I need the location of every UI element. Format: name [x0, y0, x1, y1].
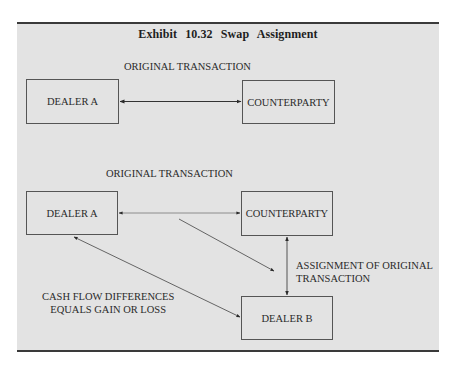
top-counterparty-label: COUNTERPARTY [247, 97, 329, 108]
top-counterparty-box: COUNTERPARTY [242, 80, 335, 124]
assignment-label-line1: ASSIGNMENT OF ORIGINAL [296, 259, 433, 272]
assignment-label-line2: TRANSACTION [296, 272, 433, 285]
dealer-b-label: DEALER B [261, 313, 312, 324]
exhibit-title: Exhibit 10.32 Swap Assignment [0, 27, 456, 42]
bottom-dealer-a-label: DEALER A [46, 208, 97, 219]
bottom-counterparty-box: COUNTERPARTY [241, 191, 333, 236]
cash-flow-label: CASH FLOW DIFFERENCES EQUALS GAIN OR LOS… [42, 290, 174, 316]
top-dealer-a-box: DEALER A [26, 79, 119, 124]
bottom-counterparty-label: COUNTERPARTY [246, 208, 328, 219]
bottom-dealer-a-box: DEALER A [26, 191, 118, 235]
dealer-b-box: DEALER B [241, 296, 333, 340]
top-caption: ORIGINAL TRANSACTION [124, 60, 251, 73]
cash-flow-label-line2: EQUALS GAIN OR LOSS [42, 303, 174, 316]
assignment-label: ASSIGNMENT OF ORIGINAL TRANSACTION [296, 259, 433, 285]
bottom-caption: ORIGINAL TRANSACTION [106, 167, 233, 180]
top-dealer-a-label: DEALER A [47, 96, 98, 107]
cash-flow-label-line1: CASH FLOW DIFFERENCES [42, 290, 174, 303]
